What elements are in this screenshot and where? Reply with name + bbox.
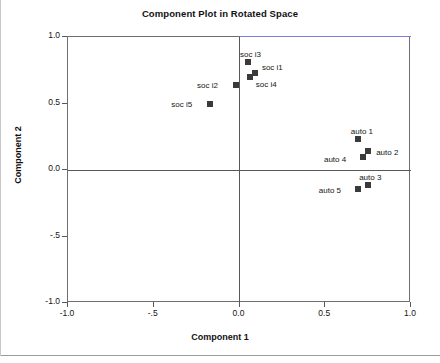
data-point-label: soc i1 [262,63,283,72]
y-axis-tick-label: -.5 [26,230,60,240]
data-point-marker [365,182,371,188]
data-point-label: auto 5 [319,186,341,195]
y-axis-tick-label: 1.0 [26,30,60,40]
plot-area: soc i3soc i1soc i4soc i2soc i5auto 1auto… [67,36,410,302]
x-axis-tick [410,302,411,307]
data-point-marker [360,154,366,160]
footer-rule [0,355,440,356]
data-point-label: auto 4 [324,155,346,164]
top-border-accent [240,36,411,37]
x-axis-tick [67,302,68,307]
x-axis-tick [324,302,325,307]
x-axis-tick [153,302,154,307]
y-axis-tick-label: -1.0 [26,296,60,306]
x-axis-title: Component 1 [0,332,440,342]
x-axis-tick-label: 1.0 [390,308,430,318]
x-axis-tick-label: -1.0 [47,308,87,318]
x-axis-tick-label: 0.5 [304,308,344,318]
data-point-label: auto 1 [351,127,373,136]
data-point-label: auto 2 [376,148,398,157]
y-axis-tick-label: 0.5 [26,97,60,107]
data-point-label: soc i4 [256,80,277,89]
left-edge-rule [0,0,1,356]
y-axis-tick [62,169,67,170]
data-point-marker [365,148,371,154]
zero-line-vertical [239,37,240,303]
data-point-marker [355,186,361,192]
data-point-marker [245,59,251,65]
y-axis-tick [62,103,67,104]
chart-title: Component Plot in Rotated Space [0,8,440,19]
y-axis-tick [62,36,67,37]
y-axis-tick [62,236,67,237]
data-point-marker [233,82,239,88]
data-point-label: auto 3 [359,173,381,182]
data-point-marker [247,74,253,80]
data-point-marker [355,136,361,142]
component-plot-figure: Component Plot in Rotated Space soc i3so… [0,0,440,363]
data-point-marker [252,70,258,76]
x-axis-tick-label: 0.0 [219,308,259,318]
y-axis-tick [62,302,67,303]
data-point-label: soc i5 [171,100,192,109]
y-axis-title: Component 2 [13,85,23,225]
x-axis-tick [239,302,240,307]
data-point-marker [207,101,213,107]
data-point-label: soc i3 [240,50,261,59]
data-point-label: soc i2 [197,81,218,90]
x-axis-tick-label: -.5 [133,308,173,318]
y-axis-tick-label: 0.0 [26,163,60,173]
